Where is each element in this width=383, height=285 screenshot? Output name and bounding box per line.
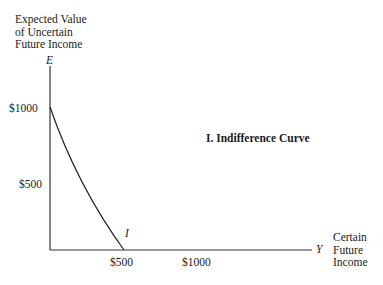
chart-plot — [0, 0, 383, 285]
indifference-curve — [50, 107, 124, 250]
